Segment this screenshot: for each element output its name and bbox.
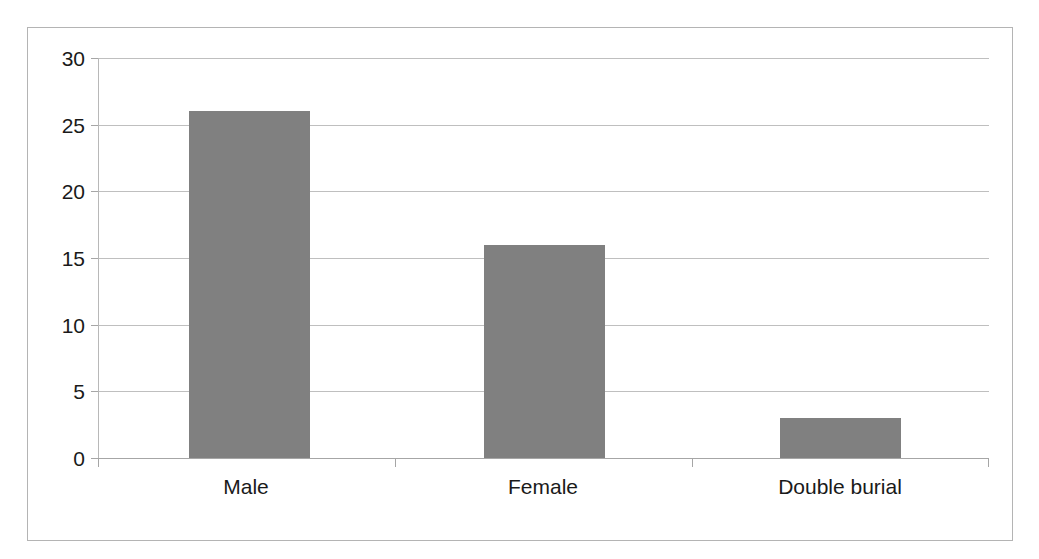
x-axis-line	[98, 458, 989, 459]
y-tick-label: 15	[62, 248, 85, 269]
gridline-30	[98, 58, 989, 59]
y-tick-label: 10	[62, 314, 85, 335]
bar-male[interactable]	[189, 111, 310, 458]
x-axis-tick-2	[692, 458, 693, 467]
x-axis-label-female: Female	[508, 476, 578, 497]
x-axis-tick-end	[988, 458, 989, 467]
x-axis-label-double-burial: Double burial	[778, 476, 902, 497]
x-axis-tick-1	[395, 458, 396, 467]
y-tick-label: 30	[62, 48, 85, 69]
y-tick-label: 0	[73, 448, 85, 469]
y-tick-label: 5	[73, 381, 85, 402]
y-tick-mark	[91, 458, 98, 459]
plot-area: 30 25 20 15 10 5	[98, 58, 989, 458]
y-tick-mark	[91, 125, 98, 126]
y-tick-mark	[91, 191, 98, 192]
bar-female[interactable]	[484, 245, 605, 458]
x-axis-tick-start	[98, 458, 99, 467]
y-tick-mark	[91, 258, 98, 259]
bar-double-burial[interactable]	[780, 418, 901, 458]
y-tick-mark	[91, 325, 98, 326]
y-tick-label: 25	[62, 114, 85, 135]
chart-page: 30 25 20 15 10 5	[0, 0, 1039, 559]
x-axis-label-male: Male	[223, 476, 269, 497]
y-axis-line	[98, 58, 99, 458]
y-tick-mark	[91, 391, 98, 392]
y-tick-mark	[91, 58, 98, 59]
chart-frame: 30 25 20 15 10 5	[27, 27, 1013, 541]
y-tick-label: 20	[62, 181, 85, 202]
